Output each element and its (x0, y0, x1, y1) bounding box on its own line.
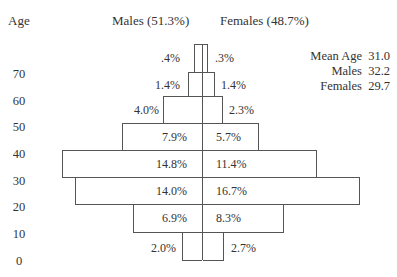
label-male-0-9: 2.0% (151, 241, 176, 255)
label-female-10-19: 8.3% (216, 211, 241, 225)
label-male-70plus: .4% (161, 51, 180, 65)
bar-male-50-59 (163, 96, 202, 124)
y-tick-60: 60 (4, 94, 34, 109)
label-female-70plus: .3% (215, 51, 234, 65)
bar-female-60-69 (203, 72, 215, 97)
y-tick-0: 0 (4, 254, 34, 269)
bar-male-70plus (194, 44, 202, 73)
males-header: Males (51.3%) (112, 13, 189, 29)
label-male-30-39: 14.8% (156, 157, 187, 171)
y-axis-title: Age (8, 13, 30, 29)
y-tick-30: 30 (4, 174, 34, 189)
stat-mean-value: 31.0 (362, 49, 390, 64)
label-female-40-49: 5.7% (216, 130, 241, 144)
stat-females: Females 29.7 (300, 79, 390, 94)
stat-mean-label: Mean Age (310, 49, 362, 64)
stat-females-value: 29.7 (362, 79, 390, 94)
label-male-60-69: 1.4% (155, 78, 180, 92)
bar-female-0-9 (203, 232, 224, 261)
label-female-30-39: 11.4% (216, 157, 247, 171)
y-tick-50: 50 (4, 120, 34, 135)
center-axis-line (202, 44, 203, 260)
bar-male-60-69 (188, 72, 202, 97)
bar-male-0-9 (182, 232, 202, 261)
label-female-60-69: 1.4% (221, 78, 246, 92)
y-tick-10: 10 (4, 227, 34, 242)
mean-age-stats: Mean Age 31.0 Males 32.2 Females 29.7 (300, 49, 390, 94)
stat-males-value: 32.2 (362, 64, 390, 79)
label-male-50-59: 4.0% (134, 103, 159, 117)
bar-female-50-59 (203, 96, 223, 124)
females-header: Females (48.7%) (220, 13, 309, 29)
stat-females-label: Females (320, 79, 362, 94)
label-male-40-49: 7.9% (162, 130, 187, 144)
stat-males-label: Males (331, 64, 362, 79)
label-female-0-9: 2.7% (231, 241, 256, 255)
bar-female-70plus (203, 44, 208, 73)
label-female-50-59: 2.3% (229, 103, 254, 117)
y-tick-70: 70 (4, 67, 34, 82)
label-female-20-29: 16.7% (216, 184, 247, 198)
stat-mean-age: Mean Age 31.0 (300, 49, 390, 64)
label-male-20-29: 14.0% (156, 184, 187, 198)
y-tick-20: 20 (4, 200, 34, 215)
y-tick-40: 40 (4, 147, 34, 162)
label-male-10-19: 6.9% (162, 211, 187, 225)
stat-males: Males 32.2 (300, 64, 390, 79)
